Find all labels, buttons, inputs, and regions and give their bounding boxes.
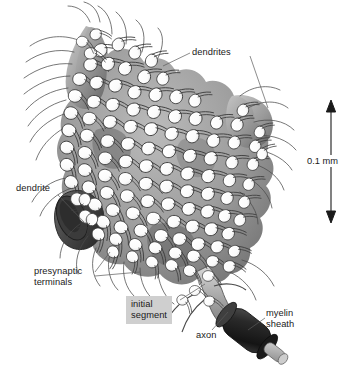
label-initial-segment: initial segment (126, 296, 172, 324)
neuron-illustration (0, 0, 360, 386)
scale-arrow-up (326, 100, 335, 112)
scale-arrow-down (326, 211, 335, 223)
neuron-figure: dendrites dendrite presynaptic terminals… (0, 0, 360, 386)
leader-dendrites-left (163, 53, 190, 66)
label-dendrite: dendrite (16, 183, 50, 194)
leader-presynaptic-b (95, 272, 140, 276)
label-myelin-sheath: myelin sheath (266, 308, 294, 329)
label-scale-value: 0.1 mm (305, 155, 340, 167)
label-dendrites: dendrites (192, 47, 231, 58)
label-axon: axon (196, 330, 216, 341)
label-presynaptic-terminals: presynaptic terminals (34, 266, 82, 287)
